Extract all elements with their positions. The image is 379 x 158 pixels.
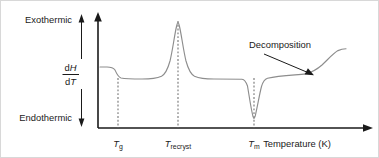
exothermic-arrowhead — [79, 14, 85, 23]
dh-dt-label: dH dT — [63, 62, 80, 87]
dh-dt-numerator: dH — [65, 62, 77, 73]
x-axis — [98, 124, 373, 132]
endothermic-label: Endothermic — [19, 112, 72, 123]
exothermic-label: Exothermic — [25, 14, 72, 25]
decomposition-label: Decomposition — [249, 39, 311, 50]
thermal-direction-arrow — [79, 14, 85, 127]
decomposition-arrow-shaft — [264, 54, 309, 73]
dsc-figure: dH dT Exothermic Endothermic Decompositi… — [0, 0, 379, 158]
x-axis-arrowhead — [363, 124, 373, 132]
dh-dt-denominator: dT — [65, 76, 77, 87]
decomposition-annotation-group: Decomposition — [249, 39, 314, 75]
x-axis-title: Temperature (K) — [263, 138, 331, 149]
guide-lines — [118, 21, 254, 128]
y-axis — [94, 12, 102, 128]
dsc-chart-svg: dH dT Exothermic Endothermic Decompositi… — [1, 1, 379, 158]
endothermic-arrowhead — [79, 119, 85, 128]
y-axis-arrowhead — [94, 12, 102, 22]
tick-label-tm: Tm — [248, 138, 260, 150]
x-tick-labels: Tg Trecryst Tm — [113, 138, 260, 151]
tick-label-tg: Tg — [113, 138, 123, 151]
tick-label-trecryst: Trecryst — [165, 138, 191, 151]
